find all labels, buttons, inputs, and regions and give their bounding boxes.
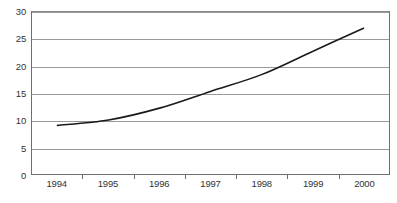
x-tick-label: 1996 xyxy=(149,178,169,189)
line-chart: 051015202530 199419951996199719981999200… xyxy=(0,0,397,203)
data-series-line xyxy=(32,12,389,174)
y-tick-label: 30 xyxy=(2,6,26,17)
y-tick-label: 20 xyxy=(2,60,26,71)
y-tick-label: 15 xyxy=(2,88,26,99)
y-tick-label: 10 xyxy=(2,115,26,126)
y-axis: 051015202530 xyxy=(0,0,26,203)
plot-area xyxy=(31,11,390,175)
x-tick-label: 2000 xyxy=(354,178,374,189)
x-tick-label: 1999 xyxy=(303,178,323,189)
x-tick-mark xyxy=(236,175,237,179)
x-tick-label: 1994 xyxy=(46,178,66,189)
x-tick-mark xyxy=(82,175,83,179)
series-path xyxy=(57,28,363,125)
x-axis: 1994199519961997199819992000 xyxy=(31,178,390,198)
x-tick-mark xyxy=(185,175,186,179)
y-tick-label: 0 xyxy=(2,170,26,181)
y-tick-label: 25 xyxy=(2,33,26,44)
x-tick-label: 1997 xyxy=(200,178,220,189)
x-tick-label: 1995 xyxy=(98,178,118,189)
x-tick-mark xyxy=(339,175,340,179)
y-tick-label: 5 xyxy=(2,142,26,153)
x-tick-label: 1998 xyxy=(252,178,272,189)
x-tick-mark xyxy=(134,175,135,179)
x-tick-mark xyxy=(287,175,288,179)
